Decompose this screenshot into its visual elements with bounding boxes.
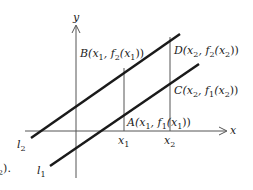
label-l1: l1 — [37, 164, 46, 179]
point-label-B: B(x1, f2(x1)) — [79, 47, 144, 62]
point-label-D: D(x2, f2(x2)) — [173, 44, 239, 59]
label-l2: l2 — [17, 138, 26, 153]
point-label-C: C(x2, f1(x2)) — [174, 84, 238, 99]
tick-x1: x1 — [118, 134, 129, 149]
tick-x2: x2 — [164, 134, 175, 149]
diagram-canvas: y x l2 l1 x1 x2 B(x1, f2(x1)) D(x2, f2(x… — [0, 0, 253, 190]
cropped-text-fragment: 2). — [0, 162, 11, 177]
y-axis-label: y — [72, 11, 80, 24]
point-label-A: A(x1, f1(x1)) — [126, 116, 191, 131]
x-axis-label: x — [230, 124, 237, 137]
